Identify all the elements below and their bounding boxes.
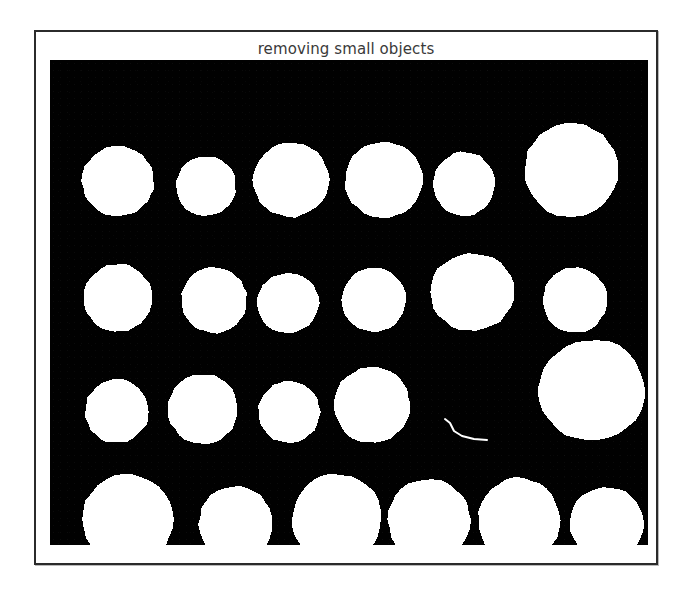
mask-blob (525, 123, 618, 216)
mask-blob (543, 267, 608, 332)
mask-svg (50, 60, 648, 545)
figure-frame: removing small objects (34, 30, 658, 565)
mask-blob (430, 253, 514, 330)
page-title: removing small objects (36, 40, 656, 58)
mask-blob (176, 157, 235, 216)
binary-mask-image (50, 60, 648, 545)
